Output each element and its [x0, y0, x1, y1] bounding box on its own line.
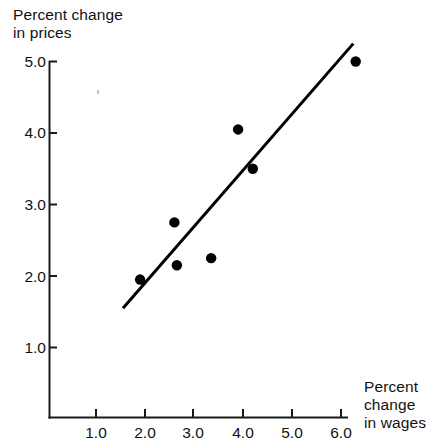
data-point — [233, 124, 243, 134]
data-point — [169, 217, 179, 227]
data-point — [135, 274, 145, 284]
trend-line — [123, 44, 353, 309]
data-point-group — [135, 56, 361, 284]
data-point — [248, 164, 258, 174]
scatter-plot-figure: Percent changein prices Percentchangein … — [0, 0, 440, 448]
data-point — [206, 253, 216, 263]
plot-canvas — [0, 0, 440, 448]
data-point — [351, 56, 361, 66]
data-point — [172, 260, 182, 270]
axis-lines — [49, 61, 349, 419]
